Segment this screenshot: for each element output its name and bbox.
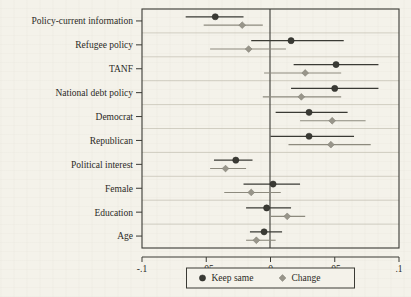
legend-label-keep-same[interactable]: Keep same (212, 273, 254, 283)
category-label-education: Education (94, 208, 133, 218)
category-label-age: Age (117, 231, 133, 241)
legend[interactable]: Keep sameChange (187, 268, 355, 288)
point-marker (253, 237, 260, 244)
x-axis-tick-label: .1 (395, 264, 402, 274)
point-marker (288, 38, 294, 44)
x-axis-tick-label: -.1 (137, 264, 148, 274)
point-marker (233, 157, 239, 163)
category-label-tanf: TANF (109, 64, 133, 74)
point-marker (298, 93, 305, 100)
coefficient-plot: Policy-current informationRefugee policy… (0, 0, 411, 297)
point-marker (284, 213, 291, 220)
point-marker (333, 61, 339, 67)
series-change (204, 22, 371, 244)
point-marker (302, 70, 309, 77)
category-label-female: Female (105, 184, 133, 194)
series-keep-same (186, 14, 379, 235)
category-label-national-debt-policy: National debt policy (55, 88, 133, 98)
point-marker (248, 189, 255, 196)
point-marker (222, 165, 229, 172)
point-marker (306, 133, 312, 139)
point-marker (329, 117, 336, 124)
point-marker (239, 22, 246, 29)
point-marker (261, 229, 267, 235)
legend-marker-keep-same[interactable] (199, 275, 205, 281)
category-label-democrat: Democrat (96, 112, 134, 122)
category-axis-labels: Policy-current informationRefugee policy… (31, 16, 133, 241)
point-marker (245, 46, 252, 53)
point-marker (327, 141, 334, 148)
point-marker (212, 14, 218, 20)
category-label-political-interest: Political interest (71, 160, 133, 170)
legend-label-change[interactable]: Change (292, 273, 321, 283)
point-marker (270, 181, 276, 187)
category-label-republican: Republican (90, 136, 134, 146)
category-label-refugee-policy: Refugee policy (75, 40, 133, 50)
point-marker (332, 85, 338, 91)
point-marker (306, 109, 312, 115)
point-marker (264, 205, 270, 211)
category-axis-ticks (136, 21, 142, 236)
category-label-policy-current-information: Policy-current information (31, 16, 133, 26)
